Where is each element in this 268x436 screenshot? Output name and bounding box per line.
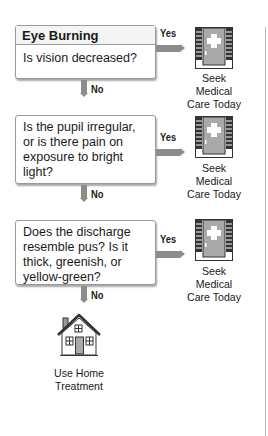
page-margin-line — [265, 27, 266, 436]
question-box-1: Eye Burning Is vision decreased? — [15, 25, 156, 79]
yes-arrow-1 — [156, 45, 180, 52]
question-box-3: Does the discharge resemble pus? Is it t… — [15, 220, 156, 285]
flowchart-title: Eye Burning — [16, 26, 155, 45]
question-text-1: Is vision decreased? — [16, 45, 155, 70]
no-label-1: No — [91, 83, 103, 95]
yes-arrow-2 — [156, 149, 180, 156]
home-treatment-label: Use Home Treatment — [47, 367, 111, 393]
yes-arrow-3 — [156, 251, 180, 258]
seek-care-label-2: Seek Medical Care Today — [186, 162, 241, 201]
yes-label-2: Yes — [160, 131, 176, 143]
no-label-3: No — [91, 289, 103, 301]
question-text-3: Does the discharge resemble pus? Is it t… — [16, 221, 155, 289]
question-text-2: Is the pupil irregular, or is there pain… — [16, 116, 155, 184]
medical-door-icon — [195, 116, 233, 158]
no-label-2: No — [91, 188, 103, 200]
yes-label-3: Yes — [160, 233, 176, 245]
no-arrow-3 — [81, 286, 87, 299]
seek-care-label-1: Seek Medical Care Today — [186, 72, 241, 111]
house-icon — [56, 313, 102, 357]
seek-care-label-3: Seek Medical Care Today — [186, 265, 241, 304]
medical-door-icon — [195, 219, 233, 261]
question-box-2: Is the pupil irregular, or is there pain… — [15, 115, 156, 184]
yes-label-1: Yes — [160, 27, 176, 39]
medical-door-icon — [195, 27, 233, 69]
no-arrow-2 — [81, 185, 87, 198]
no-arrow-1 — [81, 80, 87, 93]
